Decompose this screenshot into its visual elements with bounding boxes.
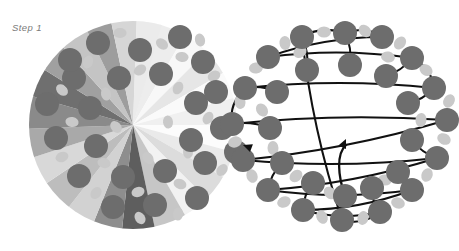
small-node-15: [356, 210, 370, 226]
inner-node-3: [265, 80, 289, 104]
outer-node-10: [425, 146, 449, 170]
outer-node-7: [220, 112, 244, 136]
node-10: [204, 80, 228, 104]
node-20: [143, 193, 167, 217]
inner-node-0: [295, 58, 319, 82]
outer-node-6: [233, 76, 257, 100]
outer-node-3: [256, 45, 280, 69]
small-node-0: [113, 28, 126, 38]
node-6: [191, 50, 215, 74]
outer-node-1: [333, 21, 357, 45]
node-0: [86, 31, 110, 55]
node-13: [179, 128, 203, 152]
arrowheads: [242, 137, 350, 152]
arrowhead-center: [338, 137, 349, 149]
outer-node-2: [370, 25, 394, 49]
node-11: [44, 126, 68, 150]
node-17: [153, 159, 177, 183]
outer-node-0: [290, 25, 314, 49]
radial-wedge-cluster: [13, 5, 253, 244]
inner-node-4: [396, 91, 420, 115]
small-node-9: [435, 131, 452, 147]
node-4: [107, 66, 131, 90]
node-1: [128, 38, 152, 62]
outer-node-8: [435, 108, 459, 132]
small-node-17: [380, 50, 396, 63]
node-18: [193, 151, 217, 175]
inner-node-1: [338, 53, 362, 77]
figure-canvas: Step 1: [0, 0, 459, 251]
small-node-14: [314, 208, 330, 226]
inner-node-9: [301, 171, 325, 195]
inner-node-10: [360, 176, 384, 200]
inner-node-5: [258, 116, 282, 140]
node-16: [111, 165, 135, 189]
node-19: [101, 195, 125, 219]
arrow-ring-network: [220, 21, 459, 232]
outer-node-15: [330, 208, 354, 232]
node-22: [58, 48, 82, 72]
node-15: [67, 164, 91, 188]
inner-node-2: [374, 64, 398, 88]
node-8: [78, 96, 102, 120]
inner-node-7: [270, 151, 294, 175]
node-21: [185, 186, 209, 210]
node-5: [149, 62, 173, 86]
outer-node-11: [256, 178, 280, 202]
inner-node-8: [386, 160, 410, 184]
outer-node-4: [400, 46, 424, 70]
node-12: [84, 134, 108, 158]
outer-node-14: [368, 200, 392, 224]
small-node-0: [317, 27, 331, 38]
node-7: [35, 92, 59, 116]
outer-node-9: [231, 148, 255, 172]
diagram-svg: [0, 0, 459, 251]
small-node-2: [279, 36, 291, 51]
inner-node-11: [333, 184, 357, 208]
node-2: [168, 25, 192, 49]
outer-node-5: [422, 76, 446, 100]
inner-node-6: [400, 128, 424, 152]
outer-node-13: [291, 198, 315, 222]
